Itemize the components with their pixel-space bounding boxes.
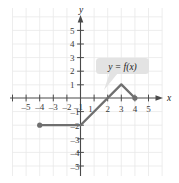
x-tick-label: –5: [21, 102, 32, 112]
y-tick-label: 2: [70, 66, 75, 76]
function-graph-figure: –5 –4 –3 –2 –1 1 2 3 4 5 5 4 3 2 1 –1 –2…: [0, 0, 179, 183]
y-axis-arrowhead: [78, 15, 84, 23]
x-tick-labels: –5 –4 –3 –2 –1 1 2 3 4 5: [21, 102, 152, 114]
callout-label: y = f(x): [107, 62, 137, 73]
y-tick-label: –3: [70, 135, 81, 145]
curve-endpoint-left: [37, 123, 42, 128]
x-tick-label: 4: [133, 104, 138, 114]
y-tick-label: 3: [70, 53, 75, 63]
x-tick-label: –3: [48, 102, 59, 112]
y-tick-label: 4: [70, 39, 75, 49]
y-axis-label: y: [78, 5, 84, 15]
coordinate-plane: –5 –4 –3 –2 –1 1 2 3 4 5 5 4 3 2 1 –1 –2…: [0, 0, 179, 183]
x-tick-label: –4: [34, 102, 45, 112]
x-axis-label: x: [166, 93, 172, 103]
grid-lines: [13, 8, 163, 176]
callout-tail: [104, 72, 118, 90]
y-tick-label: 1: [70, 80, 75, 90]
y-tick-label: –1: [70, 107, 80, 117]
x-tick-label: 3: [119, 104, 124, 114]
y-tick-label: 5: [70, 26, 75, 36]
y-tick-label: –5: [70, 162, 81, 172]
y-tick-label: –4: [70, 148, 81, 158]
x-tick-label: 2: [105, 104, 110, 114]
curve-endpoint-right: [132, 95, 137, 100]
x-tick-label: 5: [146, 104, 151, 114]
y-tick-labels: 5 4 3 2 1 –1 –2 –3 –4 –5: [70, 26, 81, 172]
